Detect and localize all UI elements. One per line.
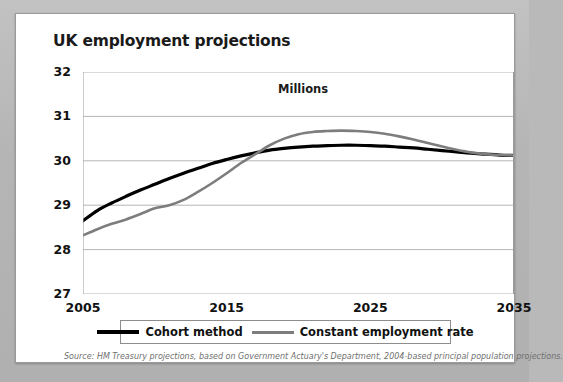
x-axis-tick-label: 2015 <box>197 300 257 315</box>
chart-panel: UK employment projections Millions 32313… <box>15 13 515 363</box>
x-axis-tick-label: 2005 <box>53 300 113 315</box>
plot-area <box>83 72 514 294</box>
gridlines <box>83 72 514 294</box>
y-axis-tick-label: 32 <box>47 64 71 79</box>
source-note: Source: HM Treasury projections, based o… <box>64 352 563 361</box>
legend-item-constant-employment-rate: Constant employment rate <box>252 325 474 339</box>
legend-label-cohort-method: Cohort method <box>145 325 242 339</box>
y-axis-tick-label: 28 <box>47 242 71 257</box>
x-axis-tick-label: 2025 <box>340 300 400 315</box>
chart-svg <box>83 72 514 294</box>
y-axis-tick-label: 31 <box>47 108 71 123</box>
series-lines <box>83 131 514 236</box>
chart-legend: Cohort method Constant employment rate <box>120 320 451 344</box>
y-axis-tick-label: 30 <box>47 153 71 168</box>
legend-swatch-constant-employment-rate <box>252 331 294 334</box>
legend-swatch-cohort-method <box>97 330 139 334</box>
legend-item-cohort-method: Cohort method <box>97 325 242 339</box>
x-axis-tick-label: 2035 <box>484 300 544 315</box>
series-line <box>83 145 514 221</box>
y-axis-tick-label: 29 <box>47 197 71 212</box>
y-axis-tick-label: 27 <box>47 286 71 301</box>
legend-label-constant-employment-rate: Constant employment rate <box>300 325 474 339</box>
page-title: UK employment projections <box>53 32 290 50</box>
